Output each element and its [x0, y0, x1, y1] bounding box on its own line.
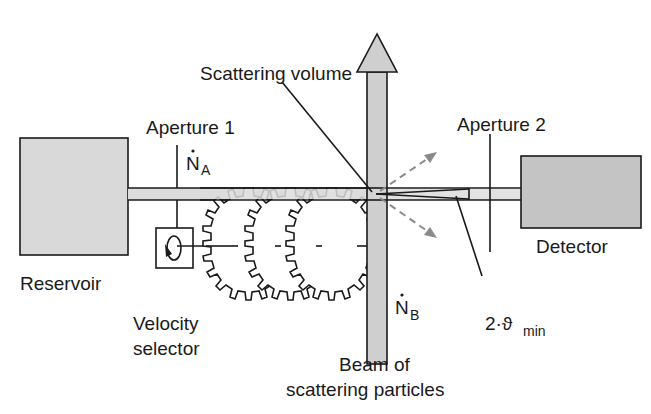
angle-label: 2·ϑ min [485, 313, 546, 339]
velocity-selector-discs [200, 188, 377, 300]
beam-label-1: Beam of [339, 354, 410, 375]
arrow-up-icon [357, 34, 397, 72]
aperture-2-label: Aperture 2 [457, 114, 546, 135]
angle-leader [456, 196, 482, 276]
scattering-volume-leader [282, 82, 372, 192]
velocity-selector-label-1: Velocity [133, 313, 199, 334]
reservoir [20, 138, 128, 255]
scattering-apparatus-diagram: Reservoir Aperture 1 N A Scattering volu… [0, 0, 651, 414]
dot-accent [400, 293, 403, 296]
svg-text:2·ϑ: 2·ϑ [485, 313, 513, 334]
aperture-1-label: Aperture 1 [146, 117, 235, 138]
flux-b-label: N B [395, 293, 419, 323]
flux-a-label: N A [186, 149, 211, 178]
svg-text:N: N [395, 297, 409, 318]
svg-text:N: N [186, 153, 200, 174]
arrow-down-right-icon [424, 227, 437, 238]
arrow-up-right-icon [424, 152, 437, 163]
detector-label: Detector [536, 236, 608, 257]
detector [521, 156, 641, 228]
beam-label-2: scattering particles [286, 379, 444, 400]
scattering-volume-label: Scattering volume [200, 63, 352, 84]
reservoir-label: Reservoir [20, 273, 102, 294]
velocity-selector-label-2: selector [133, 338, 200, 359]
svg-text:min: min [523, 323, 546, 339]
dot-accent [191, 149, 194, 152]
svg-text:A: A [201, 162, 211, 178]
svg-text:B: B [410, 307, 419, 323]
